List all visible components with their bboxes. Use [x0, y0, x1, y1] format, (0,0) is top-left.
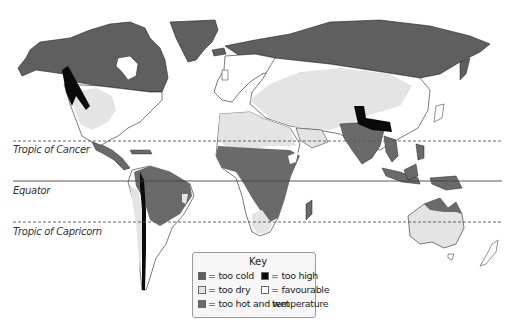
- key-item-favourable-cont: temperature: [261, 298, 328, 309]
- tropic-of-cancer-label: Tropic of Cancer: [13, 144, 90, 155]
- region-madagascar: [306, 200, 312, 220]
- region-new-guinea: [430, 176, 462, 190]
- region-new-zealand: [480, 240, 498, 266]
- region-iceland: [212, 48, 226, 56]
- too-dry-swatch: [198, 286, 206, 294]
- region-kamchatka: [460, 58, 470, 80]
- key-title: Key: [193, 256, 315, 267]
- too-high-swatch: [261, 272, 269, 280]
- favourable-swatch: [261, 286, 269, 294]
- region-tasmania: [448, 254, 454, 260]
- tropic-of-capricorn-label: Tropic of Capricorn: [13, 226, 102, 237]
- key-item-too-high: = too high: [261, 270, 318, 281]
- key-item-too-dry: = too dry: [198, 284, 250, 295]
- region-north-america-cold: [18, 22, 168, 92]
- key-item-favourable: = favourable: [261, 284, 329, 295]
- region-greenland: [170, 20, 218, 62]
- region-japan: [434, 104, 444, 122]
- too-cold-swatch: [198, 272, 206, 280]
- region-se-asia: [384, 136, 398, 162]
- region-central-america: [92, 142, 130, 170]
- region-uk: [222, 70, 228, 80]
- region-caribbean: [130, 150, 152, 154]
- too-hot-wet-swatch: [198, 300, 206, 308]
- key-item-too-cold: = too cold: [198, 270, 254, 281]
- map-key: Key = too cold = too dry = too hot and w…: [192, 252, 316, 318]
- region-philippines: [416, 144, 424, 160]
- equator-label: Equator: [13, 185, 50, 196]
